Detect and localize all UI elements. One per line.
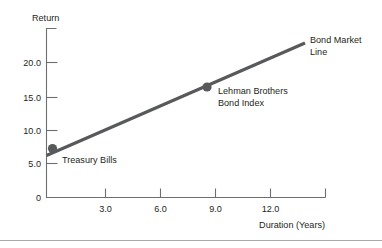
y-tick-labels: 20.0 15.0 10.0 5.0 0 [23,58,41,203]
x-tick-label-6: 6.0 [154,204,167,214]
x-tick-labels: 3.0 6.0 9.0 12.0 [99,204,279,214]
bond-market-line-label-line2: Line [310,47,327,57]
lehman-label-line2: Bond Index [218,98,264,108]
y-axis-title: Return [32,13,59,23]
series-bond-market-line [47,43,306,156]
x-axis-title: Duration (Years) [259,220,325,230]
y-tick-label-0: 0 [36,193,41,203]
bond-market-line-chart: Return 20.0 15.0 10.0 5.0 0 3.0 6.0 9.0 … [0,0,382,248]
y-tick-label-10: 10.0 [23,126,41,136]
x-tick-label-3: 3.0 [99,204,112,214]
x-tick-label-12: 12.0 [262,204,280,214]
y-tick-label-5: 5.0 [28,159,41,169]
y-tick-label-15: 15.0 [23,93,41,103]
lehman-label: Lehman Brothers Bond Index [218,86,288,108]
bond-market-line-label-line1: Bond Market [310,35,362,45]
data-point-lehman-brothers-bond-index [202,82,211,91]
data-point-treasury-bills [48,144,57,153]
y-tick-label-20: 20.0 [23,58,41,68]
lehman-label-line1: Lehman Brothers [218,86,288,96]
chart-canvas: Return 20.0 15.0 10.0 5.0 0 3.0 6.0 9.0 … [0,0,382,248]
x-tick-label-9: 9.0 [209,204,222,214]
bond-market-line-label: Bond Market Line [310,35,362,57]
treasury-bills-label: Treasury Bills [62,155,117,165]
